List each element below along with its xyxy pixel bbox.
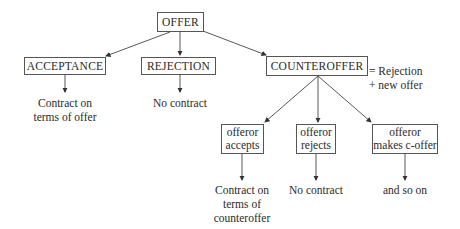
offeror-makes-coffer-line-1: offeror [389,126,421,139]
offeror-makes-coffer-line-2: makes c-offer [373,139,436,152]
definition-line-2: + new offer [369,78,423,92]
counteroffer-definition: = Rejection + new offer [369,64,423,92]
node-rejection: REJECTION [141,57,216,75]
node-counteroffer: COUNTEROFFER [266,56,368,76]
offeror-accepts-line-1: offeror [227,126,259,139]
node-offer-label: OFFER [162,16,199,29]
offeror-accepts-line-2: accepts [226,139,260,152]
outcome-rejection-line-1: No contract [130,96,230,110]
outcome-offeror-accepts-line-2: terms of [192,197,292,211]
outcome-rejection: No contract [130,96,230,110]
node-counteroffer-label: COUNTEROFFER [271,60,364,73]
outcome-acceptance: Contract on terms of offer [15,96,115,124]
outcome-offeror-accepts-line-3: counteroffer [192,211,292,225]
node-offer: OFFER [157,12,204,32]
definition-line-1: = Rejection [369,64,423,78]
node-offeror-rejects: offeror rejects [296,124,336,154]
offeror-rejects-line-2: rejects [301,139,331,152]
node-acceptance-label: ACCEPTANCE [27,60,103,73]
node-rejection-label: REJECTION [147,60,210,73]
outcome-offeror-rejects-line-1: No contract [266,183,366,197]
node-offeror-makes-coffer: offeror makes c-offer [372,124,438,154]
outcome-offeror-rejects: No contract [266,183,366,197]
outcome-offeror-makes-coffer: and so on [355,183,455,197]
node-offeror-accepts: offeror accepts [221,124,264,154]
outcome-acceptance-line-2: terms of offer [15,110,115,124]
node-acceptance: ACCEPTANCE [24,57,106,75]
outcome-offeror-makes-coffer-line-1: and so on [355,183,455,197]
offeror-rejects-line-1: offeror [300,126,332,139]
outcome-acceptance-line-1: Contract on [15,96,115,110]
